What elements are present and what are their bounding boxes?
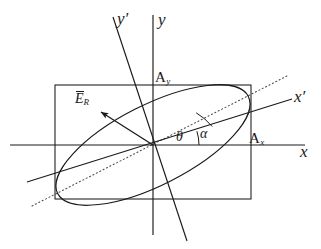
figure-canvas bbox=[0, 0, 321, 249]
amplitude-y-label: Ay bbox=[155, 70, 170, 86]
field-vector-subscript: R bbox=[84, 97, 90, 107]
x-axis-label: x bbox=[300, 143, 308, 160]
amplitude-x-label: Ax bbox=[249, 131, 264, 147]
field-vector-label: ER bbox=[75, 92, 89, 107]
amplitude-y-letter: A bbox=[155, 69, 166, 85]
amplitude-x-subscript: x bbox=[260, 137, 264, 147]
field-vector-arrow bbox=[101, 112, 153, 145]
y-prime-axis-label: y′ bbox=[117, 10, 128, 27]
field-vector-letter: E bbox=[75, 91, 84, 106]
amplitude-y-subscript: y bbox=[166, 76, 170, 86]
vector-overbar bbox=[76, 91, 84, 92]
theta-angle-label: θ bbox=[176, 130, 183, 144]
amplitude-x-letter: A bbox=[249, 130, 260, 146]
alpha-angle-label: α bbox=[200, 127, 207, 141]
alpha-angle-arc bbox=[196, 113, 212, 127]
x-prime-axis-label: x′ bbox=[294, 88, 305, 105]
y-axis-label: y bbox=[158, 11, 166, 28]
theta-angle-arc bbox=[197, 131, 199, 145]
polarization-ellipse-figure: y′ y x′ x Ay Ax ER θ α bbox=[0, 0, 321, 249]
